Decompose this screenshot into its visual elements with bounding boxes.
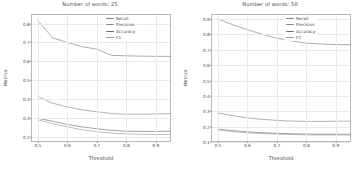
line-series-precision — [218, 113, 351, 121]
gridline-horizontal — [212, 111, 350, 112]
legend-item-f1[interactable]: F1 — [106, 35, 135, 40]
y-tick-label: 0.6 — [203, 63, 210, 68]
x-tick-label: 0.7 — [273, 143, 280, 148]
legend-label: Recall — [296, 16, 309, 21]
x-tick-label: 0.6 — [64, 143, 71, 148]
legend-swatch-accuracy — [286, 31, 294, 32]
plot-area: 0.10.20.30.40.50.60.70.80.90.50.60.70.80… — [211, 14, 351, 142]
x-tick-label: 0.8 — [123, 143, 130, 148]
gridline-horizontal — [32, 99, 170, 100]
y-tick-mark — [210, 80, 212, 81]
legend-swatch-precision — [286, 24, 294, 25]
chart-panel-words-50: Number of words: 50 Metrics Threshold 0.… — [180, 0, 360, 173]
x-tick-label: 0.7 — [93, 143, 100, 148]
y-tick-mark — [210, 19, 212, 20]
y-tick-label: 0.5 — [23, 78, 30, 83]
y-tick-mark — [30, 42, 32, 43]
y-tick-mark — [210, 34, 212, 35]
legend-item-precision[interactable]: Precision — [286, 22, 315, 27]
gridline-horizontal — [212, 127, 350, 128]
y-tick-label: 0.7 — [203, 47, 210, 52]
gridline-vertical — [336, 15, 337, 141]
y-tick-mark — [30, 61, 32, 62]
gridline-horizontal — [212, 96, 350, 97]
legend-swatch-f1 — [286, 37, 294, 38]
x-axis-label: Threshold — [31, 155, 171, 161]
legend-item-f1[interactable]: F1 — [286, 35, 315, 40]
y-tick-label: 0.3 — [23, 116, 30, 121]
y-tick-label: 0.4 — [23, 97, 30, 102]
legend-label: Recall — [116, 16, 129, 21]
legend-item-recall[interactable]: Recall — [106, 16, 135, 21]
gridline-horizontal — [212, 34, 350, 35]
legend-swatch-precision — [106, 24, 114, 25]
x-tick-label: 0.5 — [34, 143, 41, 148]
legend-swatch-recall — [106, 18, 114, 19]
y-tick-mark — [210, 65, 212, 66]
gridline-vertical — [277, 15, 278, 141]
gridline-horizontal — [212, 81, 350, 82]
x-tick-label: 0.5 — [214, 143, 221, 148]
gridline-vertical — [218, 15, 219, 141]
gridline-vertical — [67, 15, 68, 141]
y-tick-mark — [30, 137, 32, 138]
y-tick-label: 0.2 — [203, 124, 210, 129]
x-tick-label: 0.8 — [303, 143, 310, 148]
y-tick-label: 0.7 — [23, 40, 30, 45]
y-tick-mark — [30, 80, 32, 81]
metrics-figure: Number of words: 25 Metrics Threshold 0.… — [0, 0, 360, 173]
plot-area: 0.20.30.40.50.60.70.80.50.60.70.80.9 — [31, 14, 171, 142]
x-axis-label: Threshold — [211, 155, 351, 161]
gridline-horizontal — [32, 118, 170, 119]
y-tick-label: 0.4 — [203, 93, 210, 98]
y-tick-mark — [210, 142, 212, 143]
y-axis-label: Metrics — [3, 70, 8, 87]
gridline-horizontal — [212, 142, 350, 143]
gridline-vertical — [247, 15, 248, 141]
y-tick-mark — [210, 96, 212, 97]
legend-swatch-recall — [286, 18, 294, 19]
panel-title: Number of words: 25 — [0, 1, 180, 7]
legend-label: Accuracy — [296, 29, 315, 34]
legend-item-accuracy[interactable]: Accuracy — [106, 29, 135, 34]
legend: RecallPrecisionAccuracyF1 — [104, 15, 137, 41]
gridline-vertical — [38, 15, 39, 141]
legend-swatch-f1 — [106, 37, 114, 38]
line-series-accuracy — [218, 129, 351, 134]
gridline-horizontal — [32, 137, 170, 138]
legend-item-precision[interactable]: Precision — [106, 22, 135, 27]
chart-panel-words-25: Number of words: 25 Metrics Threshold 0.… — [0, 0, 180, 173]
legend-label: F1 — [296, 35, 301, 40]
y-tick-mark — [210, 111, 212, 112]
x-tick-label: 0.9 — [332, 143, 339, 148]
y-tick-label: 0.2 — [23, 135, 30, 140]
gridline-horizontal — [212, 50, 350, 51]
y-tick-mark — [30, 99, 32, 100]
legend-item-accuracy[interactable]: Accuracy — [286, 29, 315, 34]
y-tick-label: 0.3 — [203, 109, 210, 114]
y-tick-label: 0.9 — [203, 16, 210, 21]
gridline-horizontal — [32, 24, 170, 25]
legend-label: Precision — [116, 22, 135, 27]
y-tick-label: 0.1 — [203, 140, 210, 145]
y-tick-mark — [210, 127, 212, 128]
legend-label: Accuracy — [116, 29, 135, 34]
legend-item-recall[interactable]: Recall — [286, 16, 315, 21]
legend-swatch-accuracy — [106, 31, 114, 32]
y-axis-label: Metrics — [183, 70, 188, 87]
gridline-horizontal — [32, 80, 170, 81]
gridline-horizontal — [32, 42, 170, 43]
panel-title: Number of words: 50 — [180, 1, 360, 7]
legend: RecallPrecisionAccuracyF1 — [284, 15, 317, 41]
gridline-vertical — [97, 15, 98, 141]
gridline-vertical — [156, 15, 157, 141]
series-lines — [32, 15, 172, 143]
y-tick-mark — [30, 23, 32, 24]
gridline-horizontal — [212, 65, 350, 66]
x-tick-label: 0.9 — [152, 143, 159, 148]
y-tick-label: 0.8 — [23, 21, 30, 26]
y-tick-label: 0.5 — [203, 78, 210, 83]
y-tick-label: 0.6 — [23, 59, 30, 64]
gridline-horizontal — [32, 61, 170, 62]
y-tick-mark — [30, 118, 32, 119]
